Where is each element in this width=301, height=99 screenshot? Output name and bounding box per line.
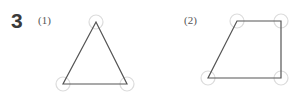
triangle-figure xyxy=(56,15,134,91)
triangle-shape xyxy=(63,22,127,84)
figures xyxy=(0,0,301,99)
quadrilateral-figure xyxy=(201,14,288,85)
quadrilateral-shape xyxy=(208,21,281,78)
